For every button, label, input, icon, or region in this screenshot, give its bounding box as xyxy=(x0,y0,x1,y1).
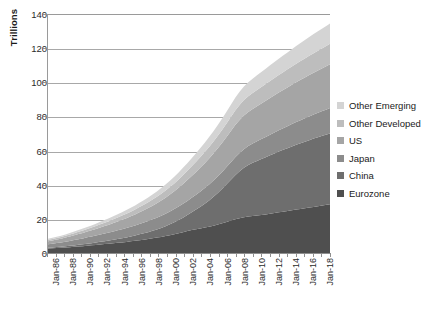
plot-area xyxy=(47,14,330,253)
x-axis-tick-mark xyxy=(133,253,134,257)
x-axis-tick-mark xyxy=(116,253,117,257)
x-axis-tick-label: Jan-94 xyxy=(120,258,130,286)
x-axis-tick-mark xyxy=(90,253,91,257)
x-axis-tick-mark xyxy=(124,253,125,257)
x-axis-tick-mark xyxy=(244,253,245,257)
legend-item[interactable]: Eurozone xyxy=(337,188,421,199)
legend-label: US xyxy=(349,135,362,146)
x-axis-tick-label: Jan-00 xyxy=(171,258,181,286)
legend-label: Other Emerging xyxy=(349,100,416,111)
legend-item[interactable]: US xyxy=(337,135,421,146)
x-axis-tick-mark xyxy=(201,253,202,257)
legend-swatch-icon xyxy=(337,190,344,197)
x-axis-tick-mark xyxy=(287,253,288,257)
legend-label: Other Developed xyxy=(349,118,421,129)
x-axis-tick-mark xyxy=(184,253,185,257)
y-axis-tick-label: 20 xyxy=(7,213,47,224)
legend-swatch-icon xyxy=(337,102,344,109)
legend-label: Japan xyxy=(349,153,375,164)
x-axis-tick-label: Jan-14 xyxy=(291,258,301,286)
legend-swatch-icon xyxy=(337,120,344,127)
x-axis-tick-mark xyxy=(56,253,57,257)
y-axis-tick-label: 140 xyxy=(7,9,47,20)
legend-item[interactable]: Other Developed xyxy=(337,118,421,129)
y-axis-tick-label: 60 xyxy=(7,145,47,156)
legend-swatch-icon xyxy=(337,137,344,144)
x-axis-tick-mark xyxy=(158,253,159,257)
legend-swatch-icon xyxy=(337,155,344,162)
x-axis-tick-label: Jan-92 xyxy=(102,258,112,286)
x-axis-tick-mark xyxy=(270,253,271,257)
x-axis-tick-mark xyxy=(81,253,82,257)
x-axis-tick-mark xyxy=(304,253,305,257)
x-axis-tick-mark xyxy=(321,253,322,257)
y-axis-tick-label: 100 xyxy=(7,77,47,88)
x-axis-tick-mark xyxy=(64,253,65,257)
x-axis-tick-mark xyxy=(296,253,297,257)
x-axis-tick-label: Jan-96 xyxy=(137,258,147,286)
chart-legend: Other EmergingOther DevelopedUSJapanChin… xyxy=(337,100,421,199)
y-axis-tick-label: 0 xyxy=(7,248,47,259)
x-axis-tick-label: Jan-06 xyxy=(223,258,233,286)
x-axis-tick-mark xyxy=(107,253,108,257)
legend-label: China xyxy=(349,170,374,181)
legend-label: Eurozone xyxy=(349,188,390,199)
x-axis-tick-mark xyxy=(210,253,211,257)
legend-item[interactable]: Other Emerging xyxy=(337,100,421,111)
x-axis-tick-label: Jan-18 xyxy=(325,258,335,286)
legend-item[interactable]: Japan xyxy=(337,153,421,164)
x-axis-tick-mark xyxy=(227,253,228,257)
legend-swatch-icon xyxy=(337,172,344,179)
x-axis-tick-label: Jan-88 xyxy=(68,258,78,286)
x-axis-tick-mark xyxy=(47,253,48,257)
x-axis-tick-mark xyxy=(253,253,254,257)
x-axis-tick-label: Jan-98 xyxy=(154,258,164,286)
x-axis-tick-label: Jan-86 xyxy=(51,258,61,286)
x-axis-tick-mark xyxy=(176,253,177,257)
x-axis-tick-label: Jan-90 xyxy=(85,258,95,286)
x-axis-tick-mark xyxy=(279,253,280,257)
y-axis-tick-label: 120 xyxy=(7,43,47,54)
x-axis-tick-mark xyxy=(141,253,142,257)
legend-item[interactable]: China xyxy=(337,170,421,181)
x-axis-tick-mark xyxy=(167,253,168,257)
x-axis-tick-mark xyxy=(219,253,220,257)
y-axis-tick-label: 80 xyxy=(7,111,47,122)
x-axis-tick-label: Jan-08 xyxy=(240,258,250,286)
x-axis-tick-mark xyxy=(98,253,99,257)
x-axis-tick-mark xyxy=(313,253,314,257)
x-axis-tick-label: Jan-12 xyxy=(274,258,284,286)
x-axis-tick-mark xyxy=(150,253,151,257)
x-axis-tick-label: Jan-04 xyxy=(205,258,215,286)
x-axis-tick-mark xyxy=(73,253,74,257)
x-axis-tick-label: Jan-10 xyxy=(257,258,267,286)
x-axis-tick-label: Jan-02 xyxy=(188,258,198,286)
x-axis-tick-mark xyxy=(330,253,331,257)
y-axis-tick-label: 40 xyxy=(7,179,47,190)
x-axis-tick-label: Jan-16 xyxy=(308,258,318,286)
stacked-area-chart: Trillions 020406080100120140 Jan-86Jan-8… xyxy=(0,0,442,310)
x-axis-tick-mark xyxy=(193,253,194,257)
x-axis-tick-mark xyxy=(236,253,237,257)
area-series-group xyxy=(48,15,330,253)
x-axis-tick-mark xyxy=(261,253,262,257)
